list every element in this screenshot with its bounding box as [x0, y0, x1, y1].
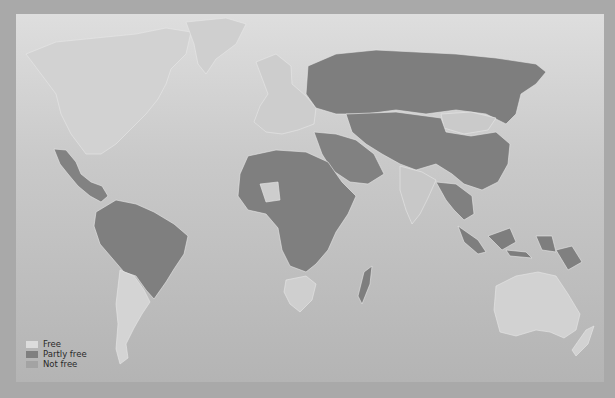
- region-mexico-central-america: [54, 149, 108, 202]
- region-southern-africa: [284, 276, 316, 312]
- legend-item-free: Free: [26, 339, 87, 349]
- region-russia: [306, 50, 546, 124]
- legend-label: Free: [43, 339, 61, 349]
- region-north-america: [26, 28, 191, 154]
- region-australia: [494, 272, 580, 338]
- legend-label: Partly free: [43, 349, 87, 359]
- region-southeast-asia: [436, 182, 474, 220]
- legend-label: Not free: [43, 359, 77, 369]
- legend-swatch-partly-free: [26, 351, 38, 358]
- legend-swatch-not-free: [26, 361, 38, 368]
- region-south-america-north: [94, 200, 188, 299]
- map-legend: Free Partly free Not free: [26, 339, 87, 369]
- region-greenland: [186, 18, 246, 74]
- legend-item-not-free: Not free: [26, 359, 87, 369]
- region-mongolia: [441, 112, 496, 134]
- region-india: [400, 166, 436, 224]
- region-indonesia: [458, 226, 556, 258]
- world-map: Free Partly free Not free: [16, 14, 604, 382]
- world-map-svg: [16, 14, 604, 382]
- region-new-guinea: [556, 246, 582, 270]
- legend-swatch-free: [26, 341, 38, 348]
- region-madagascar: [358, 266, 372, 304]
- legend-item-partly-free: Partly free: [26, 349, 87, 359]
